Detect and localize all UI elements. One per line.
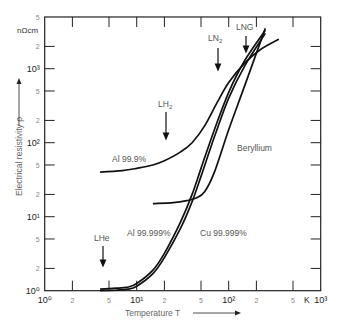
x-tick-label: 10⁰: [38, 295, 52, 305]
y-tick-label: 2: [36, 265, 40, 272]
cu99999-label: Cu 99.999%: [200, 228, 247, 238]
x-tick-label: 2: [162, 297, 166, 304]
plot-border: [45, 17, 321, 291]
al99999-label: Al 99.999%: [127, 228, 171, 238]
y-arrow-icon: [17, 78, 22, 84]
resistivity-chart: 10⁰2510¹2510²2510³10⁰2510¹2510²2510³25 L…: [0, 0, 343, 324]
x-tick-label: 5: [107, 297, 111, 304]
svg-text:Electrical resistivity ρ: Electrical resistivity ρ: [14, 117, 24, 196]
x-tick-label: 2: [254, 297, 258, 304]
ln2-label: LN2: [208, 33, 223, 44]
y-tick-label: 5: [36, 14, 40, 21]
x-tick-label: 5: [199, 297, 203, 304]
plot-frame: [45, 17, 321, 291]
x-tick-label: 2: [70, 297, 74, 304]
x-axis-title: Temperature T: [125, 308, 241, 318]
y-unit-label: nΩcm: [17, 26, 38, 35]
lhe-label: LHe: [94, 233, 110, 243]
y-tick-label: 5: [36, 162, 40, 169]
axis-ticks: 10⁰2510¹2510²2510³10⁰2510¹2510²2510³25: [26, 14, 328, 305]
y-axis-title: Electrical resistivity ρ: [14, 78, 24, 196]
x-tick-label: 5: [291, 297, 295, 304]
y-tick-label: 2: [36, 191, 40, 198]
y-tick-label: 10¹: [27, 212, 40, 222]
y-tick-label: 10⁰: [26, 286, 40, 296]
x-tick-label: 10²: [222, 295, 235, 305]
lng-label: LNG: [236, 22, 253, 32]
al999-label: Al 99.9%: [112, 154, 146, 164]
lh2-label: LH2: [158, 99, 173, 110]
y-tick-label: 5: [36, 236, 40, 243]
y-tick-label: 5: [36, 88, 40, 95]
beryllium-label: Beryllium: [237, 143, 272, 153]
x-arrow-icon: [235, 311, 241, 316]
y-tick-label: 2: [36, 117, 40, 124]
x-unit-label: K: [304, 295, 310, 305]
svg-text:Temperature T: Temperature T: [125, 308, 180, 318]
y-tick-label: 2: [36, 43, 40, 50]
y-tick-label: 10²: [27, 138, 40, 148]
x-tick-label: 10¹: [130, 295, 143, 305]
y-tick-label: 10³: [27, 64, 40, 74]
x-tick-label: 10³: [314, 295, 327, 305]
